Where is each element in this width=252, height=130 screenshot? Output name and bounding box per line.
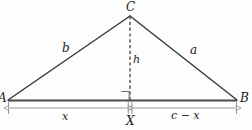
altitude-label-h: h — [133, 54, 140, 65]
triangle-side-b — [8, 16, 130, 100]
vertex-label-a: A — [0, 92, 7, 104]
vertex-label-b: B — [240, 92, 249, 104]
geometry-figure: C A B X b a h x c − x — [0, 0, 252, 130]
triangle-diagram-svg — [0, 0, 252, 130]
foot-label-x: X — [126, 115, 135, 127]
side-label-a: a — [190, 44, 197, 56]
right-angle-marker — [122, 92, 130, 100]
segment-label-x: x — [62, 111, 68, 122]
triangle-side-a — [130, 16, 237, 100]
vertex-label-c: C — [126, 1, 135, 13]
side-label-b: b — [62, 42, 70, 54]
segment-label-c-minus-x: c − x — [171, 110, 200, 121]
